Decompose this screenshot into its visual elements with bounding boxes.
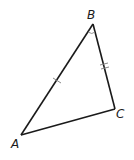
vertex-label-c: C bbox=[116, 107, 125, 121]
angle-arc-b bbox=[88, 32, 95, 34]
triangle-diagram: B C A bbox=[0, 0, 134, 160]
vertex-label-b: B bbox=[87, 8, 95, 22]
vertex-label-a: A bbox=[10, 137, 19, 151]
side-bc bbox=[93, 24, 115, 109]
